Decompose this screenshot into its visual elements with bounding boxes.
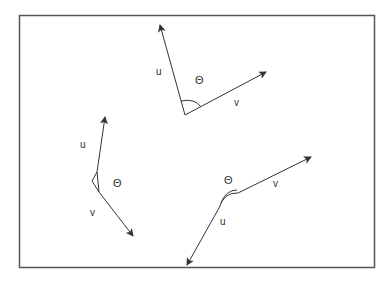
label-u-left: u (80, 140, 86, 150)
label-theta-top: Θ (195, 75, 204, 86)
label-v-top: v (234, 98, 239, 108)
vector-angle-diagram (0, 0, 389, 286)
label-u-bottom: u (220, 217, 226, 227)
diagram-frame (20, 16, 375, 268)
label-u-top: u (156, 67, 162, 77)
label-v-left: v (90, 208, 95, 218)
label-theta-bottom: Θ (224, 175, 233, 186)
label-v-bottom: v (273, 179, 278, 189)
label-theta-left: Θ (113, 178, 122, 189)
